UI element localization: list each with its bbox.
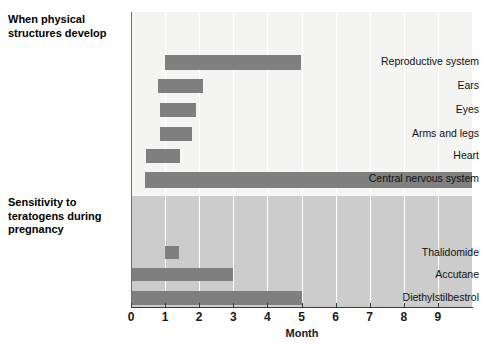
x-tick-7 (370, 303, 371, 308)
x-tick-label-4: 4 (255, 310, 279, 324)
category-label-ears: Ears (358, 79, 484, 91)
x-tick-label-6: 6 (324, 310, 348, 324)
bar-accutane (131, 268, 233, 281)
bar-arms-and-legs (160, 127, 192, 141)
bar-ears (158, 79, 202, 93)
section-header-sensitivity-line2: teratogens during (8, 210, 126, 224)
x-tick-label-9: 9 (426, 310, 450, 324)
x-tick-4 (267, 303, 268, 308)
x-tick-0 (131, 303, 132, 308)
gridline-month-5 (302, 12, 303, 307)
x-tick-2 (199, 303, 200, 308)
x-tick-6 (336, 303, 337, 308)
bar-heart (146, 149, 180, 163)
x-tick-8 (404, 303, 405, 308)
x-tick-label-0: 0 (119, 310, 143, 324)
category-label-heart: Heart (358, 149, 484, 161)
bar-reproductive-system (165, 55, 301, 70)
section-header-sensitivity-line3: pregnancy (8, 223, 126, 237)
x-tick-label-3: 3 (221, 310, 245, 324)
x-tick-5 (302, 303, 303, 308)
x-tick-label-8: 8 (392, 310, 416, 324)
bar-eyes (160, 103, 196, 117)
section-header-sensitivity: Sensitivity to teratogens during pregnan… (8, 196, 126, 237)
section-header-structures-line2: structures develop (8, 27, 126, 41)
y-axis-line (131, 12, 132, 308)
x-tick-label-1: 1 (153, 310, 177, 324)
section-header-structures-line1: When physical (8, 13, 126, 27)
x-tick-3 (233, 303, 234, 308)
category-label-diethylstilbestrol: Diethylstilbestrol (358, 291, 484, 303)
category-label-accutane: Accutane (358, 268, 484, 280)
section-header-sensitivity-line1: Sensitivity to (8, 196, 126, 210)
category-label-eyes: Eyes (358, 103, 484, 115)
teratogen-timeline-chart: 0123456789 Month When physical structure… (0, 0, 484, 347)
category-label-thalidomide: Thalidomide (358, 246, 484, 258)
category-label-reproductive-system: Reproductive system (358, 55, 484, 67)
x-tick-1 (165, 303, 166, 308)
gridline-month-6 (336, 12, 337, 307)
bar-thalidomide (165, 246, 179, 259)
category-label-central-nervous-system: Central nervous system (358, 172, 484, 184)
section-header-structures: When physical structures develop (8, 13, 126, 40)
x-tick-label-7: 7 (358, 310, 382, 324)
bar-diethylstilbestrol (131, 291, 302, 305)
x-axis-title: Month (131, 327, 473, 339)
x-tick-label-5: 5 (290, 310, 314, 324)
x-tick-label-2: 2 (187, 310, 211, 324)
category-label-arms-and-legs: Arms and legs (358, 127, 484, 139)
x-tick-9 (438, 303, 439, 308)
